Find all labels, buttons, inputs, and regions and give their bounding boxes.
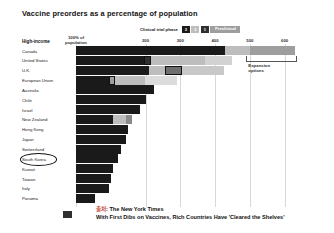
bar-segment-phase-3 <box>76 194 95 203</box>
bar-segment-phase-3 <box>76 174 111 183</box>
table-row[interactable]: New Zealand <box>0 115 334 124</box>
table-row[interactable]: Switzerland <box>0 145 334 154</box>
row-label-south-korea: South Korea <box>22 156 46 161</box>
bar-australia <box>76 85 154 94</box>
bar-taiwan <box>76 174 111 183</box>
bar-segment-phase-3 <box>76 154 118 163</box>
table-row[interactable]: Chile <box>0 95 334 104</box>
bar-segment-phase-3 <box>76 125 128 134</box>
source-badge-icon <box>63 211 72 218</box>
legend-title: Clinical trial phase <box>140 27 178 32</box>
bar-kuwait <box>76 164 113 173</box>
bar-hong-kong <box>76 125 128 134</box>
bar-segment-preclinical <box>182 66 224 75</box>
bar-segment-phase-2 <box>113 115 127 124</box>
row-label-japan: Japan <box>22 137 34 142</box>
bar-switzerland <box>76 145 121 154</box>
bar-segment-phase-3 <box>76 56 144 65</box>
bar-panama <box>76 194 95 203</box>
axis-tick: 100% ofpopulation <box>65 35 87 45</box>
row-label-italy: Italy <box>22 186 30 191</box>
row-label-israel: Israel <box>22 107 33 112</box>
row-label-canada: Canada <box>22 48 37 53</box>
bar-segment-phase-3 <box>76 95 146 104</box>
legend-swatch-preclinical: Preclinical <box>210 26 240 33</box>
table-row[interactable]: Kuwait <box>0 164 334 173</box>
row-label-new-zealand: New Zealand <box>22 117 47 122</box>
table-row[interactable]: Italy <box>0 184 334 193</box>
table-row[interactable]: Australia <box>0 85 334 94</box>
caption-line-2: With First Dibs on Vaccines, Rich Countr… <box>96 213 285 221</box>
bar-segment-phase-3 <box>76 85 154 94</box>
row-label-switzerland: Switzerland <box>22 147 44 152</box>
bar-segment-phase-3 <box>76 66 149 75</box>
table-row[interactable]: Japan <box>0 135 334 144</box>
table-row[interactable]: South Korea <box>0 154 334 163</box>
expansion-bracket-label: Expansionoptions <box>248 63 270 74</box>
page-title: Vaccine preorders as a percentage of pop… <box>22 9 198 18</box>
caption: 출처: The New York Times With First Dibs o… <box>96 205 285 221</box>
bar-israel <box>76 105 140 114</box>
row-label-european-union: European Union <box>22 78 53 83</box>
table-row[interactable]: Hong Kong <box>0 125 334 134</box>
bar-japan <box>76 135 126 144</box>
bar-segment-phase-3 <box>76 46 225 55</box>
axis-tick: 500 <box>246 38 253 43</box>
bar-segment-phase-3 <box>76 105 140 114</box>
row-label-panama: Panama <box>22 196 38 201</box>
table-row[interactable]: European Union <box>0 76 334 85</box>
legend-swatch-phase-1: 1 <box>201 26 209 33</box>
axis-tick: 600 <box>281 38 288 43</box>
row-label-united-states: United States <box>22 58 48 63</box>
bar-european-union <box>76 76 177 85</box>
axis-tick: 400 <box>211 38 218 43</box>
table-row[interactable]: Israel <box>0 105 334 114</box>
bar-segment-phase-3 <box>76 115 113 124</box>
bar-segment-phase-1 <box>144 56 151 65</box>
legend: Clinical trial phase 321Preclinical <box>140 26 240 33</box>
table-row[interactable]: Taiwan <box>0 174 334 183</box>
row-label-hong-kong: Hong Kong <box>22 127 44 132</box>
source-label: 출처 <box>96 206 106 212</box>
vaccine-preorder-chart: Vaccine preorders as a percentage of pop… <box>0 0 334 233</box>
table-row[interactable]: Panama <box>0 194 334 203</box>
bar-segment-phase-3 <box>76 135 126 144</box>
row-label-australia: Australia <box>22 87 39 92</box>
caption-line-1: 출처: The New York Times <box>96 205 285 213</box>
legend-swatch-phase-3: 3 <box>182 26 190 33</box>
bar-segment-phase-2 <box>225 46 249 55</box>
bar-united-states <box>76 56 232 65</box>
bar-segment-phase-2 <box>149 66 165 75</box>
row-label-u-k-: U.K. <box>22 68 30 73</box>
bar-chile <box>76 95 146 104</box>
table-row[interactable]: Canada <box>0 46 334 55</box>
bar-italy <box>76 184 109 193</box>
bar-segment-phase-2 <box>151 56 205 65</box>
axis-tick: 200 <box>142 38 149 43</box>
legend-swatch-phase-2: 2 <box>191 26 199 33</box>
bar-segment-preclinical <box>145 76 177 85</box>
bar-segment-phase-2 <box>115 76 145 85</box>
row-label-kuwait: Kuwait <box>22 166 35 171</box>
bar-south-korea <box>76 154 118 163</box>
bar-u-k- <box>76 66 224 75</box>
bar-new-zealand <box>76 115 132 124</box>
bar-segment-phase-1 <box>165 66 182 75</box>
bar-segment-phase-3 <box>76 164 113 173</box>
bar-segment-preclinical <box>250 46 295 55</box>
row-label-taiwan: Taiwan <box>22 176 35 181</box>
row-label-chile: Chile <box>22 97 32 102</box>
axis-tick: 300 <box>177 38 184 43</box>
bar-segment-phase-3 <box>76 184 109 193</box>
bar-canada <box>76 46 295 55</box>
table-row[interactable]: U.K. <box>0 66 334 75</box>
legend-swatch-group: 321Preclinical <box>182 26 241 33</box>
bar-segment-preclinical <box>126 115 131 124</box>
expansion-bracket <box>246 56 297 62</box>
bar-segment-phase-3 <box>76 145 121 154</box>
group-heading: High-income <box>22 39 50 44</box>
bar-segment-phase-3 <box>76 76 109 85</box>
bar-segment-preclinical <box>205 56 233 65</box>
source-name: : The New York Times <box>106 206 164 212</box>
